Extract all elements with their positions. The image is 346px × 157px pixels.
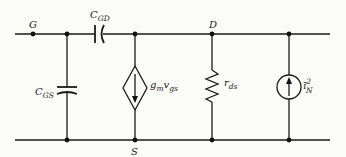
noise-label: ī2N: [303, 77, 313, 95]
cgs-capacitor-branch: [57, 34, 77, 140]
cgd-capacitor: [95, 25, 104, 43]
drain-node-dot: [210, 32, 215, 37]
arrow-down-icon: [132, 96, 138, 103]
source-node-dot: [133, 138, 138, 143]
noise-current-source: [277, 34, 301, 140]
gate-label: G: [29, 19, 37, 30]
gm-vgs-label: gmvgs: [150, 79, 178, 93]
junction-dot: [65, 138, 70, 143]
gate-node-dot: [31, 32, 36, 37]
rds-resistor: [206, 34, 218, 140]
junction-dot: [133, 32, 138, 37]
drain-label: D: [208, 19, 217, 30]
junction-dot: [65, 32, 70, 37]
circuit-diagram: G D S CGD CGS gmvgs rds ī2N: [0, 0, 346, 157]
junction-dot: [210, 138, 215, 143]
arrow-up-icon: [286, 77, 292, 84]
junction-dot: [287, 138, 292, 143]
cgs-label: CGS: [35, 86, 54, 100]
rds-label: rds: [224, 77, 238, 91]
dependent-current-source: [123, 34, 147, 140]
source-label: S: [131, 146, 138, 157]
cgd-label: CGD: [90, 9, 110, 23]
junction-dot: [287, 32, 292, 37]
